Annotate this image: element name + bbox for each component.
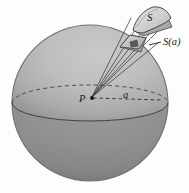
label-patch-S: S (147, 11, 153, 23)
point-p-marker (90, 96, 94, 100)
figure-container: S S(a) P a (0, 0, 189, 193)
leader-line-S-of-a (149, 42, 161, 45)
label-point-P: P (78, 93, 86, 104)
label-patch-S-of-a: S(a) (163, 36, 181, 48)
label-radius-a: a (123, 89, 128, 100)
surface-patch-S (133, 7, 172, 36)
sphere-body (12, 25, 168, 181)
sphere-solid-angle-diagram: S S(a) P a (0, 0, 189, 193)
